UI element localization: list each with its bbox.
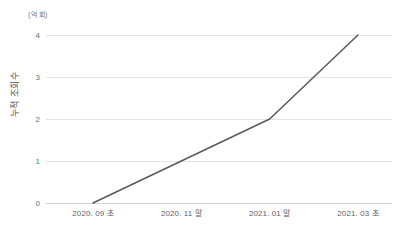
plot-area <box>46 35 392 203</box>
x-tick-label-0: 2020. 09 초 <box>72 207 113 218</box>
x-tick-label-3: 2021. 03 초 <box>337 207 378 218</box>
y-axis-title: 누적 조회수 <box>8 35 21 155</box>
y-tick-label-2: 2 <box>24 115 40 124</box>
y-axis-title-wrapper: 누적 조회수 <box>0 0 26 234</box>
series-line-0 <box>93 35 358 203</box>
gridline-y-0 <box>46 203 392 204</box>
series-line-layer <box>46 35 392 203</box>
x-tick-label-2: 2021. 01 말 <box>249 207 290 218</box>
chart-container: (억 회) 누적 조회수 01234 2020. 09 초2020. 11 말2… <box>0 0 402 234</box>
y-axis-unit-label: (억 회) <box>28 9 48 19</box>
y-tick-label-3: 3 <box>24 73 40 82</box>
y-tick-label-0: 0 <box>24 199 40 208</box>
y-tick-label-1: 1 <box>24 157 40 166</box>
x-tick-label-1: 2020. 11 말 <box>161 207 202 218</box>
y-tick-label-4: 4 <box>24 31 40 40</box>
